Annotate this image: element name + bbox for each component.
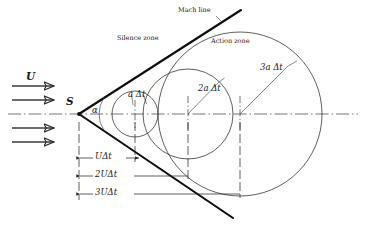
source-point-label: S xyxy=(66,96,74,107)
mach-angle-label: α xyxy=(92,106,98,115)
mach-line-lower xyxy=(79,114,233,218)
mach-cone-diagram: Mach line Silence zone Action zone S α U… xyxy=(0,0,366,227)
leader-3a-dt-tick xyxy=(288,61,297,66)
freestream-velocity-label: U xyxy=(26,71,35,82)
mach-line-label: Mach line xyxy=(178,7,211,14)
circle-2a-dt-label: 2a Δt xyxy=(198,84,221,93)
action-zone-label: Action zone xyxy=(211,38,250,45)
circle-a-dt-label: a Δt xyxy=(128,90,145,99)
silence-zone-label: Silence zone xyxy=(117,35,159,42)
diagram-canvas xyxy=(0,0,366,227)
circle-3a-dt-label: 3a Δt xyxy=(260,63,283,72)
dim-U-dt-label: UΔt xyxy=(95,152,112,161)
leader-3a-dt xyxy=(240,66,288,114)
leader-mach-line xyxy=(216,16,222,22)
dim-2U-dt-label: 2UΔt xyxy=(95,170,117,179)
leader-2a-dt-tick xyxy=(219,78,225,82)
dim-3U-dt-label: 3UΔt xyxy=(95,188,117,197)
source-point-marker xyxy=(77,112,81,116)
